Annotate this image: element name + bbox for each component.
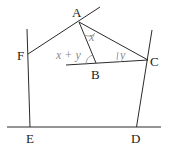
angle-arrow-c	[117, 52, 118, 60]
line-cd	[137, 30, 153, 127]
angle-label-x-plus-y: x + y	[55, 48, 81, 62]
angle-label-y: y	[119, 48, 126, 62]
label-a: A	[72, 5, 82, 20]
label-b: B	[91, 67, 100, 82]
label-f: F	[17, 48, 24, 63]
angle-label-x: x	[88, 30, 95, 44]
geometry-diagram: A B C D E F x y x + y	[0, 0, 170, 148]
line-fe	[27, 29, 30, 127]
label-d: D	[131, 131, 140, 146]
label-c: C	[150, 54, 159, 69]
label-e: E	[26, 131, 34, 146]
